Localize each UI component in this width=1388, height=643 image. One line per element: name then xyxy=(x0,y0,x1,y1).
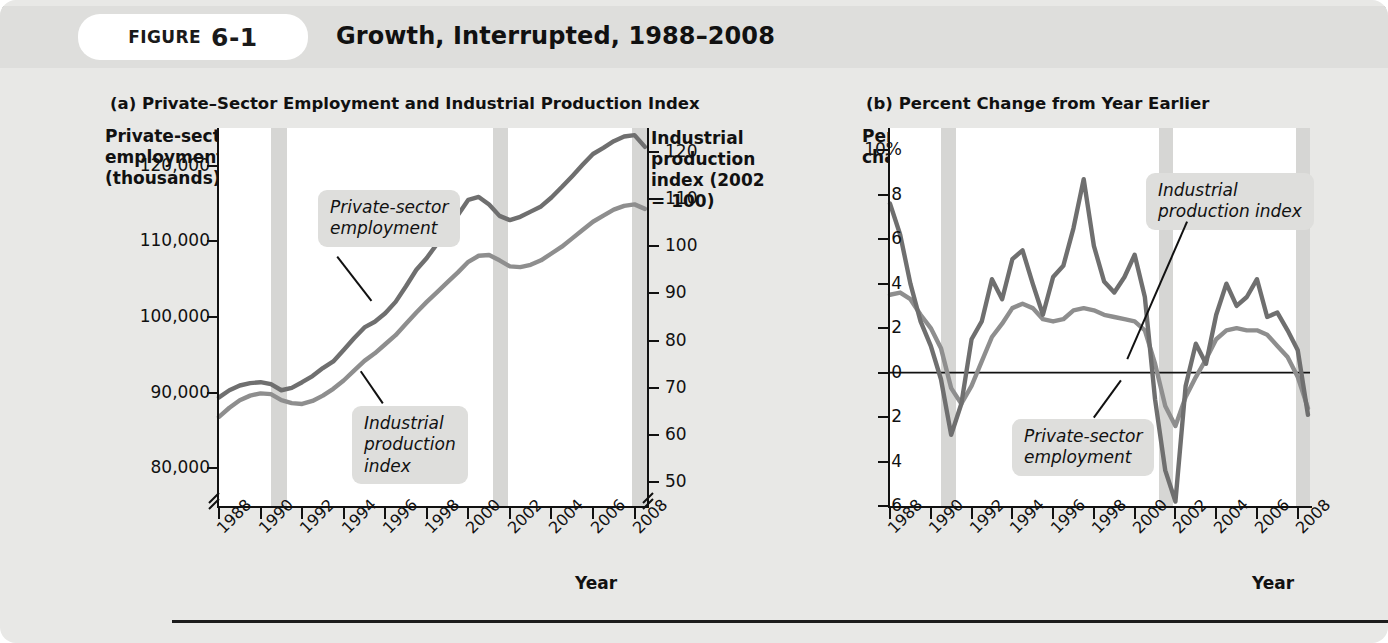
y-tick-right xyxy=(648,198,659,200)
y-tick-right xyxy=(648,245,659,247)
y-tick-label-right: 110 xyxy=(665,188,697,208)
panel-a-right-axis-break xyxy=(640,486,662,512)
y-tick-label: 8 xyxy=(846,184,902,204)
y-tick-label: 110,000 xyxy=(100,230,210,250)
panel-a-employment-callout: Private-sector employment xyxy=(318,190,460,247)
y-tick-label-right: 70 xyxy=(665,377,687,397)
footer-rule xyxy=(172,620,1388,623)
y-tick-label: 80,000 xyxy=(100,457,210,477)
figure-card: FIGURE 6-1 Growth, Interrupted, 1988–200… xyxy=(0,0,1388,643)
figure-number: 6-1 xyxy=(211,23,258,52)
panel-a-x-axis-title: Year xyxy=(575,573,617,593)
y-tick-label-right: 90 xyxy=(665,282,687,302)
y-tick-label-right: 100 xyxy=(665,235,697,255)
y-tick-right xyxy=(648,434,659,436)
y-tick-right xyxy=(648,340,659,342)
panel-b-title: (b) Percent Change from Year Earlier xyxy=(866,94,1209,113)
panel-a-y-axis-break xyxy=(206,486,228,512)
y-tick-label: −4 xyxy=(846,451,902,471)
y-tick-right xyxy=(648,151,659,153)
y-tick-label-right: 50 xyxy=(665,471,687,491)
y-tick-label: 2 xyxy=(846,317,902,337)
y-tick-right xyxy=(648,481,659,483)
y-tick-label: 4 xyxy=(846,273,902,293)
panel-b-production-callout: Industrial production index xyxy=(1146,173,1314,230)
y-tick-right xyxy=(648,387,659,389)
panel-a-production-callout: Industrial production index xyxy=(352,406,468,484)
series-line-production xyxy=(219,135,645,397)
figure-number-pill: FIGURE 6-1 xyxy=(78,14,308,60)
panel-b-x-axis-title: Year xyxy=(1252,573,1294,593)
y-tick-label: −6 xyxy=(846,495,902,515)
panel-b-employment-callout: Private-sector employment xyxy=(1012,419,1154,476)
y-tick-right xyxy=(648,292,659,294)
y-tick-label: 100,000 xyxy=(100,306,210,326)
y-tick-label: 10% xyxy=(846,139,902,159)
series-line-employment xyxy=(890,293,1308,426)
panel-a-title: (a) Private–Sector Employment and Indust… xyxy=(110,94,700,113)
y-tick-label: −2 xyxy=(846,406,902,426)
y-tick-label: 0 xyxy=(846,362,902,382)
panel-a-right-axis xyxy=(647,128,649,506)
figure-title: Growth, Interrupted, 1988–2008 xyxy=(336,22,775,50)
figure-word: FIGURE xyxy=(128,27,201,47)
y-tick-label: 90,000 xyxy=(100,382,210,402)
y-tick-label: 6 xyxy=(846,228,902,248)
y-tick-label: 120,000 xyxy=(100,155,210,175)
y-tick-label-right: 120 xyxy=(665,141,697,161)
y-tick-label-right: 80 xyxy=(665,330,687,350)
y-tick-label-right: 60 xyxy=(665,424,687,444)
